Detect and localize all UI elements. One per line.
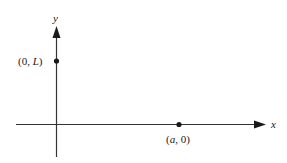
point-0-L bbox=[54, 58, 59, 63]
point-a-0 bbox=[176, 122, 181, 127]
point-a-0-label: (a, 0) bbox=[166, 133, 190, 146]
x-axis-label: x bbox=[270, 118, 276, 130]
point-0-L-label: (0, L) bbox=[18, 55, 43, 68]
y-axis-arrowhead bbox=[53, 26, 61, 38]
x-axis-arrowhead bbox=[254, 121, 266, 129]
y-axis-label: y bbox=[52, 12, 58, 24]
coordinate-diagram: y x (0, L) (a, 0) bbox=[0, 0, 287, 163]
